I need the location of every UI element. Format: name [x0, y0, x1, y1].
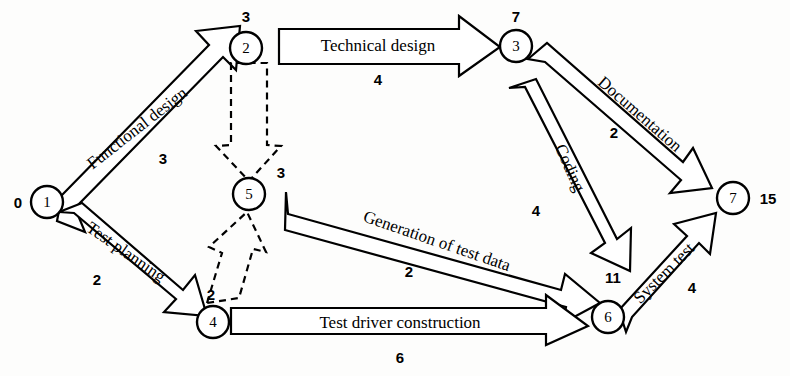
- event-time-5: 3: [277, 164, 285, 181]
- activity-duration-test-driver-construction: 6: [396, 349, 404, 366]
- dummy-4-5-arrow-shape: [207, 212, 266, 303]
- activity-label-test-driver-construction: Test driver construction: [319, 313, 481, 332]
- event-time-6: 11: [605, 269, 621, 286]
- event-node-3-label: 3: [512, 38, 520, 54]
- event-node-2-label: 2: [242, 40, 250, 56]
- event-node-4[interactable]: 4: [197, 306, 229, 338]
- activity-label-system-test: System test: [630, 239, 699, 308]
- activity-arrow-dummy-2-5[interactable]: [216, 63, 281, 181]
- activity-label-functional-design: Functional design: [83, 83, 191, 173]
- activity-duration-system-test: 4: [688, 279, 697, 296]
- event-node-5[interactable]: 5: [233, 178, 265, 210]
- pert-network-canvas: Functional design 3 Technical design 4 D…: [0, 0, 790, 376]
- event-node-4-label: 4: [209, 314, 217, 330]
- event-time-3: 7: [512, 8, 520, 25]
- activity-arrow-dummy-4-5[interactable]: [207, 212, 266, 303]
- event-node-5-label: 5: [245, 186, 253, 202]
- activity-label-technical-design: Technical design: [321, 36, 436, 55]
- dummy-2-5-arrow-shape: [216, 63, 281, 181]
- event-node-3[interactable]: 3: [500, 30, 532, 62]
- pert-network-diagram: Functional design 3 Technical design 4 D…: [0, 0, 790, 376]
- event-node-1-label: 1: [43, 194, 51, 210]
- activity-duration-technical-design: 4: [374, 71, 383, 88]
- activity-duration-functional-design: 3: [159, 150, 167, 167]
- event-node-7-label: 7: [729, 190, 737, 206]
- event-node-7[interactable]: 7: [717, 182, 749, 214]
- activity-duration-coding: 4: [532, 202, 541, 219]
- activity-duration-documentation: 2: [610, 124, 618, 141]
- event-node-6-label: 6: [604, 309, 612, 325]
- event-time-4: 2: [207, 286, 215, 303]
- event-node-1[interactable]: 1: [31, 186, 63, 218]
- activity-label-coding: Coding: [551, 141, 589, 195]
- event-node-6[interactable]: 6: [592, 301, 624, 333]
- event-node-2[interactable]: 2: [230, 32, 262, 64]
- activity-duration-generation-of-test-data: 2: [405, 263, 413, 280]
- event-time-2: 3: [242, 8, 250, 25]
- event-time-1: 0: [14, 194, 22, 211]
- event-time-7: 15: [760, 190, 777, 207]
- activity-duration-test-planning: 2: [93, 271, 101, 288]
